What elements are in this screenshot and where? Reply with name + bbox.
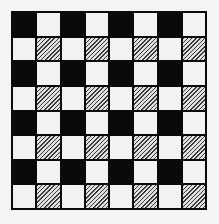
- grid-cell-hatched: [37, 87, 59, 110]
- grid-cell-white: [37, 62, 59, 85]
- grid-cell-white: [110, 38, 132, 61]
- grid-cell-white: [159, 136, 181, 159]
- grid-cell-black: [158, 12, 182, 37]
- grid-cell-hatched: [134, 38, 156, 61]
- grid-cell-white: [183, 62, 205, 85]
- grid-cell-black: [109, 111, 133, 136]
- grid-cell-hatched: [134, 185, 156, 208]
- grid-cell-white: [86, 13, 108, 36]
- grid-cell-hatched: [183, 38, 205, 61]
- grid-cell-hatched: [37, 38, 59, 61]
- grid-cell-white: [13, 38, 35, 61]
- grid-cell-white: [62, 38, 84, 61]
- grid-cell-white: [134, 62, 156, 85]
- grid-cell-white: [13, 136, 35, 159]
- grid-cell-white: [37, 13, 59, 36]
- grid-cell-hatched: [134, 87, 156, 110]
- grid-cell-black: [109, 160, 133, 185]
- grid-cell-black: [12, 12, 36, 37]
- grid-cell-hatched: [183, 136, 205, 159]
- grid-cell-white: [13, 87, 35, 110]
- grid-cell-white: [86, 112, 108, 135]
- grid-cell-white: [110, 136, 132, 159]
- grid-cell-white: [159, 87, 181, 110]
- grid-cell-white: [110, 185, 132, 208]
- grid-cell-hatched: [183, 87, 205, 110]
- grid-cell-white: [110, 87, 132, 110]
- grid-cell-black: [12, 160, 36, 185]
- grid-cell-hatched: [134, 136, 156, 159]
- grid-cell-hatched: [37, 185, 59, 208]
- grid-cell-white: [62, 136, 84, 159]
- grid-cell-white: [134, 112, 156, 135]
- grid-cell-white: [159, 38, 181, 61]
- grid-cell-black: [12, 111, 36, 136]
- grid-cell-black: [61, 12, 85, 37]
- grid-cell-white: [86, 62, 108, 85]
- grid-cell-black: [158, 61, 182, 86]
- grid-cell-white: [37, 112, 59, 135]
- checker-grid: [11, 11, 207, 210]
- grid-cell-white: [183, 13, 205, 36]
- grid-cell-hatched: [86, 185, 108, 208]
- grid-cell-white: [183, 112, 205, 135]
- grid-cell-black: [61, 61, 85, 86]
- grid-cell-black: [61, 160, 85, 185]
- grid-cell-black: [109, 12, 133, 37]
- grid-cell-black: [158, 111, 182, 136]
- grid-cell-white: [13, 185, 35, 208]
- grid-cell-white: [183, 161, 205, 184]
- grid-cell-white: [134, 161, 156, 184]
- grid-cell-white: [159, 185, 181, 208]
- grid-cell-white: [62, 185, 84, 208]
- grid-cell-hatched: [37, 136, 59, 159]
- grid-cell-hatched: [86, 38, 108, 61]
- grid-cell-white: [62, 87, 84, 110]
- grid-cell-hatched: [86, 136, 108, 159]
- grid-cell-white: [86, 161, 108, 184]
- grid-cell-black: [12, 61, 36, 86]
- grid-cell-black: [61, 111, 85, 136]
- grid-cell-white: [134, 13, 156, 36]
- grid-cell-white: [37, 161, 59, 184]
- grid-cell-hatched: [86, 87, 108, 110]
- grid-cell-black: [158, 160, 182, 185]
- grid-cell-hatched: [183, 185, 205, 208]
- grid-cell-black: [109, 61, 133, 86]
